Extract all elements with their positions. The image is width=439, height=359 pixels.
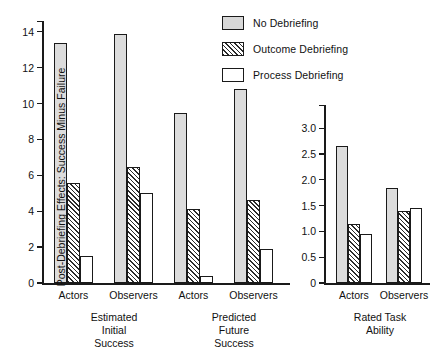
right-chart-panel: 00.51.01.52.02.53.0 ActorsObservers Rate… (324, 105, 430, 283)
bar-dotted-actors-0 (336, 146, 348, 283)
y-tick-label: 10 (8, 98, 34, 110)
bar-open-actors-2 (200, 276, 213, 283)
y-tick-label: 0 (8, 277, 34, 289)
y-tick-label: 1.5 (294, 200, 316, 212)
left-bars-area (42, 21, 290, 283)
y-tick-label: 0 (294, 277, 316, 289)
bar-hatched-actors-2 (187, 209, 200, 283)
bar-hatched-observers-1 (398, 211, 410, 283)
bar-hatched-observers-3 (247, 200, 260, 283)
y-tick-label: 2 (8, 241, 34, 253)
left-x-axis (42, 283, 290, 285)
y-tick-label: 8 (8, 133, 34, 145)
right-bars-area (324, 105, 430, 283)
x-group-label: Observers (364, 289, 439, 301)
y-tick-label: 2.0 (294, 174, 316, 186)
y-tick-label: 1.0 (294, 225, 316, 237)
bar-hatched-observers-1 (127, 167, 140, 283)
y-tick-label: 14 (8, 26, 34, 38)
bar-dotted-observers-1 (114, 34, 127, 283)
right-x-axis (324, 283, 430, 285)
y-tick-label: 6 (8, 169, 34, 181)
section-label: Predicted Future Success (179, 311, 289, 350)
bar-open-observers-3 (260, 249, 273, 283)
section-label: Rated Task Ability (325, 311, 435, 337)
left-y-axis-label: Post-Debriefing Effects: Success Minus F… (55, 62, 67, 292)
bar-dotted-observers-1 (386, 188, 398, 283)
bar-hatched-actors-0 (348, 224, 360, 283)
bar-open-actors-0 (80, 256, 93, 283)
y-tick-label: 4 (8, 205, 34, 217)
y-tick-label: 0.5 (294, 251, 316, 263)
section-label: Estimated Initial Success (59, 311, 169, 350)
bar-dotted-observers-3 (234, 89, 247, 283)
bar-open-observers-1 (410, 208, 422, 283)
y-tick-label: 12 (8, 62, 34, 74)
bar-hatched-actors-0 (67, 183, 80, 283)
y-tick-label: 2.5 (294, 148, 316, 160)
bar-dotted-actors-2 (174, 113, 187, 283)
bar-open-actors-0 (360, 234, 372, 283)
x-group-label: Observers (214, 289, 294, 301)
left-chart-panel: 02468101214 ActorsObserversActorsObserve… (42, 21, 290, 283)
figure-root: No Debriefing Outcome Debriefing Process… (0, 0, 439, 359)
bar-open-observers-1 (140, 193, 153, 283)
y-tick-label: 3.0 (294, 122, 316, 134)
